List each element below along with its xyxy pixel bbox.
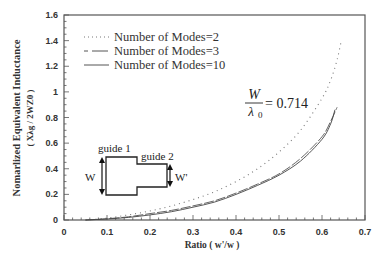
x-tick-label: 0.5 (273, 227, 286, 237)
y-tick-label: 0.4 (45, 164, 58, 174)
y-tick-label: 0.6 (45, 138, 58, 148)
y-tick-label: 0.2 (45, 189, 58, 199)
guide1-label: guide 1 (98, 142, 131, 154)
x-tick-label: 0.6 (316, 227, 329, 237)
chart: 00.10.20.30.40.50.60.7 00.20.40.60.811.2… (0, 0, 383, 264)
x-tick-label: 0.4 (230, 227, 243, 237)
x-tick-label: 0.3 (187, 227, 200, 237)
x-tick-label: 0.1 (101, 227, 114, 237)
legend-label: Number of Modes=3 (114, 44, 219, 58)
legend-item-modes-2: Number of Modes=2 (84, 30, 219, 44)
x-axis-label: Ratio ( w'/w ) (185, 240, 240, 251)
formula-numerator: W (248, 87, 261, 102)
x-tick-label: 0.7 (359, 227, 372, 237)
y-tick-label: 1.6 (45, 10, 58, 20)
y-axis-title: Nomarlized Equivalent Inductance ( Xλg /… (11, 39, 35, 196)
x-tick-label: 0.2 (144, 227, 157, 237)
x-tick-labels: 00.10.20.30.40.50.60.7 (61, 227, 371, 237)
legend-label: Number of Modes=10 (114, 58, 225, 72)
legend-label: Number of Modes=2 (114, 30, 219, 44)
w-prime-label: W' (175, 171, 187, 183)
formula-annotation: W λ 0 = 0.714 (245, 87, 308, 120)
formula-denominator-sub: 0 (258, 110, 263, 120)
legend: Number of Modes=2 Number of Modes=3 Numb… (84, 30, 225, 72)
guide2-label: guide 2 (141, 150, 174, 162)
y-tick-label: 0 (53, 215, 58, 225)
curve-solid (86, 110, 335, 220)
y-axis-sublabel: ( Xλg / 2WZ0 ) (25, 90, 35, 147)
legend-item-modes-10: Number of Modes=10 (84, 58, 225, 72)
y-tick-label: 1.2 (45, 61, 58, 71)
y-tick-label: 1.4 (45, 36, 58, 46)
formula-denominator: λ (247, 104, 254, 119)
formula-value: = 0.714 (265, 96, 308, 111)
y-tick-labels: 00.20.40.60.811.21.41.6 (45, 10, 58, 225)
y-tick-label: 1 (53, 87, 58, 97)
waveguide-step-diagram: guide 1 guide 2 W W' (85, 142, 187, 195)
waveguide-outline (106, 157, 167, 195)
w-label: W (85, 171, 96, 183)
w-dimension-arrow-icon (99, 157, 105, 195)
y-axis-label: Nomarlized Equivalent Inductance (11, 39, 22, 196)
x-tick-label: 0 (61, 227, 66, 237)
w-prime-dimension-arrow-icon (167, 164, 173, 187)
legend-item-modes-3: Number of Modes=3 (84, 44, 219, 58)
y-tick-label: 0.8 (45, 113, 58, 123)
